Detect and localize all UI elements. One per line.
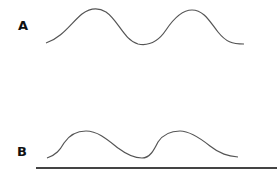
diagram-canvas [0,0,277,178]
curve-a [46,9,244,45]
curve-b [47,131,238,158]
